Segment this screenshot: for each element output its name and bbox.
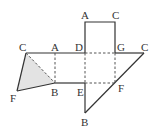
label-left-c: C — [19, 41, 26, 53]
geometry-net-diagram: A C C A D G C F B E F B — [0, 0, 157, 132]
label-bottom-b: B — [81, 116, 88, 128]
label-mid-a: A — [51, 41, 59, 53]
label-e: E — [77, 86, 84, 98]
shaded-triangle-cfb — [17, 53, 55, 91]
label-top-a: A — [81, 9, 89, 21]
label-right-c: C — [141, 41, 148, 53]
label-g: G — [117, 41, 125, 53]
label-left-f: F — [10, 92, 16, 104]
label-right-f: F — [118, 82, 124, 94]
label-d: D — [75, 41, 83, 53]
label-top-c: C — [112, 9, 119, 21]
label-left-b: B — [51, 86, 58, 98]
